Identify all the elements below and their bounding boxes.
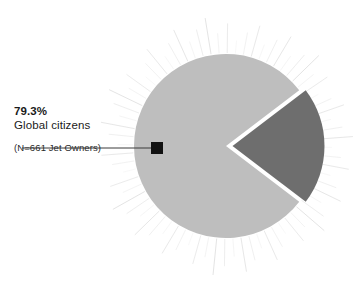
sunburst-ray [259,45,264,59]
sunburst-ray [168,43,180,65]
sunburst-ray [110,177,138,187]
sunburst-ray [280,56,290,70]
sunburst-ray [243,33,247,55]
pie-chart-figure: 79.3% Global citizens (N=661 Jet Owners) [0,0,355,283]
sunburst-ray [146,77,156,85]
sunburst-ray [176,230,186,250]
sunburst-ray [205,18,211,54]
sunburst-ray [310,186,341,201]
callout-marker-square [151,142,163,154]
sunburst-ray [112,161,134,165]
sunburst-ray [193,236,201,264]
sunburst-ray [296,207,324,231]
sunburst-ray [251,26,260,57]
sunburst-ray [189,41,195,58]
sunburst-ray [271,227,282,247]
sunburst-ray [249,236,255,260]
sunburst-ray [196,30,203,56]
sunburst-ray [291,213,305,227]
sunburst-ray [298,74,314,87]
sunburst-ray [205,237,209,257]
sunburst-ray [165,56,174,69]
sunburst-ray [235,41,236,54]
sunburst-ray [109,134,134,136]
sunburst-ray [129,88,146,98]
sunburst-ray [293,56,319,82]
sunburst-ray [123,184,141,192]
sunburst-ray [188,233,193,245]
sunburst-ray [140,205,154,216]
sunburst-ray [278,223,285,234]
pie-chart-svg [0,0,355,283]
sunburst-ray [113,191,145,209]
sunburst-ray [285,218,304,241]
sunburst-ray [123,169,136,172]
sunburst-ray [274,37,292,66]
sunburst-ray [213,239,217,275]
sunburst-ray [135,211,160,235]
sunburst-ray [145,63,161,79]
sunburst-ray [303,77,327,94]
sunburst-ray [114,103,139,113]
sunburst-ray [241,238,247,272]
sunburst-ray [149,216,165,235]
sunburst-ray [266,40,277,62]
sunburst-ray [147,49,167,74]
sunburst-ray [257,234,262,249]
sunburst-ray [119,116,136,121]
sunburst-ray [218,33,219,53]
sunburst-ray [264,231,277,260]
sunburst-ray [163,221,172,233]
sunburst-ray [101,153,133,155]
sunburst-ray [233,239,234,257]
sunburst-ray [101,122,135,128]
